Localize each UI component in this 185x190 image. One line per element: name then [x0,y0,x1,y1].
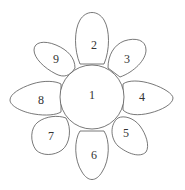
petal-7-label: 7 [48,129,54,143]
petal-8 [10,81,61,115]
petal-6-label: 6 [91,148,97,162]
petal-9-label: 9 [53,52,59,66]
petal-4 [123,81,173,115]
petal-4-label: 4 [139,90,145,104]
petal-5 [112,117,148,155]
petal-2-label: 2 [91,38,97,52]
petal-3-label: 3 [124,52,130,66]
petal-5-label: 5 [123,126,129,140]
flower-diagram: 1 2 3 4 5 6 7 8 9 [0,0,185,190]
flower-svg: 1 2 3 4 5 6 7 8 9 [0,0,185,190]
petal-8-label: 8 [38,93,44,107]
center-label: 1 [89,88,95,102]
